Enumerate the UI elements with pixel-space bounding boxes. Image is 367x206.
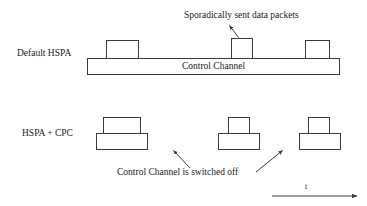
data-packet-box [231,38,253,59]
packet-leader-arrow [230,26,239,38]
data-packet-box [228,117,250,134]
control-channel-burst-box [96,133,148,150]
control-channel-burst-box [299,133,341,150]
row-label-default-hspa: Default HSPA [17,49,71,59]
switched-off-caption: Control Channel is switched off [117,168,238,178]
time-axis-label: t [305,183,307,191]
row-label-hspa-cpc: HSPA + CPC [22,129,73,139]
data-packet-box [305,40,330,59]
control-channel-burst-box [218,133,260,150]
data-packet-box [308,117,330,134]
sporadic-packets-caption: Sporadically sent data packets [184,11,299,21]
control-channel-bar-label: Control Channel [87,62,340,72]
switched-off-leader-arrow-left [174,151,191,169]
data-packet-box [103,117,141,134]
figure-root: Sporadically sent data packets Default H… [0,0,367,206]
switched-off-leader-arrow-right [256,151,283,173]
data-packet-box [106,40,139,59]
